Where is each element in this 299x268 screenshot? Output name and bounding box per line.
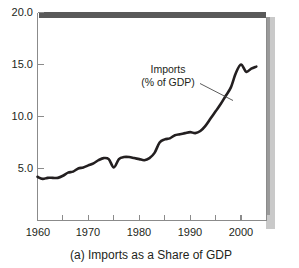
y-tick-label-20: 20.0 [12,6,33,18]
y-tick-label-15: 15.0 [12,58,33,70]
x-tick-label-1980: 1980 [127,226,151,238]
x-tick-label-1960: 1960 [26,226,50,238]
imports-line-chart: 20.0 15.0 10.0 5.0 1960 1970 1980 1990 2… [0,0,299,268]
y-axis-tick-labels: 20.0 15.0 10.0 5.0 [12,6,33,174]
figure-caption: (a) Imports as a Share of GDP [70,248,232,262]
figure-imports-share-of-gdp: 20.0 15.0 10.0 5.0 1960 1970 1980 1990 2… [0,0,299,268]
y-tick-label-5: 5.0 [18,162,33,174]
x-tick-label-1970: 1970 [76,226,100,238]
plot-top-bar [39,12,266,18]
annotation-label-line2: (% of GDP) [141,76,195,88]
x-tick-label-2000: 2000 [229,226,253,238]
y-tick-label-10: 10.0 [12,110,33,122]
x-tick-label-1990: 1990 [178,226,202,238]
plot-area-background [37,12,266,220]
x-axis-tick-labels: 1960 1970 1980 1990 2000 [26,226,253,238]
annotation-label-line1: Imports [150,63,185,75]
